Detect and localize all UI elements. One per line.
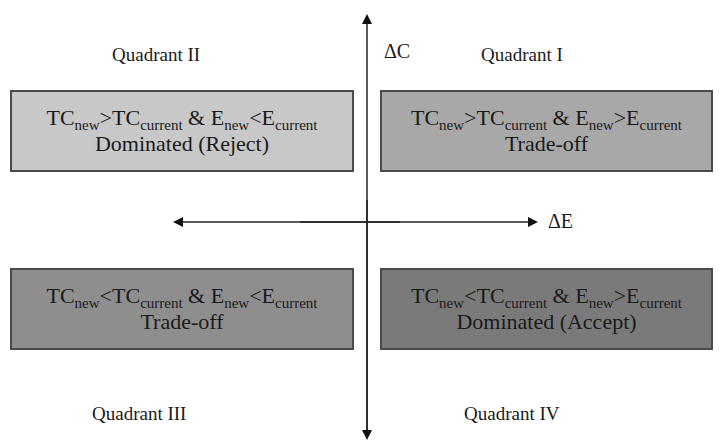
quadrant-iii-label: Quadrant III: [92, 403, 186, 425]
quadrant-iv-outcome: Dominated (Accept): [456, 309, 636, 335]
delta-c-label: ΔC: [384, 40, 410, 63]
delta-e-label: ΔE: [548, 210, 573, 233]
quadrant-ii-condition: TCnew>TCcurrent & Enew<Ecurrent: [46, 105, 317, 131]
quadrant-ii-outcome: Dominated (Reject): [95, 131, 269, 157]
quadrant-i-condition: TCnew>TCcurrent & Enew>Ecurrent: [411, 105, 682, 131]
quadrant-iii-box: TCnew<TCcurrent & Enew<Ecurrent Trade-of…: [10, 268, 354, 350]
quadrant-iii-outcome: Trade-off: [140, 309, 223, 335]
quadrant-ii-label: Quadrant II: [112, 44, 200, 66]
quadrant-iv-box: TCnew<TCcurrent & Enew>Ecurrent Dominate…: [380, 268, 713, 350]
quadrant-i-box: TCnew>TCcurrent & Enew>Ecurrent Trade-of…: [380, 90, 713, 172]
quadrant-iii-condition: TCnew<TCcurrent & Enew<Ecurrent: [46, 283, 317, 309]
axes: [0, 0, 725, 448]
quadrant-iv-condition: TCnew<TCcurrent & Enew>Ecurrent: [411, 283, 682, 309]
quadrant-ii-box: TCnew>TCcurrent & Enew<Ecurrent Dominate…: [10, 90, 354, 172]
quadrant-i-outcome: Trade-off: [505, 131, 588, 157]
quadrant-iv-label: Quadrant IV: [464, 403, 560, 425]
quadrant-i-label: Quadrant I: [481, 44, 563, 66]
